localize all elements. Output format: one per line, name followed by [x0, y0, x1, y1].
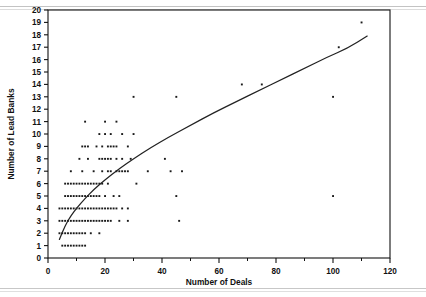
x-axis-tick-labels: 020406080100120	[46, 267, 398, 276]
svg-text:2: 2	[36, 229, 41, 238]
svg-text:10: 10	[32, 130, 42, 139]
svg-text:16: 16	[32, 56, 42, 65]
svg-text:100: 100	[326, 267, 340, 276]
svg-text:13: 13	[32, 93, 42, 102]
x-axis-title: Number of Deals	[186, 277, 253, 287]
svg-text:80: 80	[271, 267, 281, 276]
svg-text:60: 60	[214, 267, 224, 276]
svg-text:11: 11	[32, 118, 41, 127]
svg-text:18: 18	[32, 31, 42, 40]
svg-text:14: 14	[32, 80, 42, 89]
x-axis-ticks	[48, 258, 390, 263]
svg-text:4: 4	[36, 204, 41, 213]
svg-text:1: 1	[36, 242, 41, 251]
scatter-data-points	[59, 22, 363, 247]
svg-text:8: 8	[36, 155, 41, 164]
svg-text:0: 0	[36, 254, 41, 263]
svg-text:6: 6	[36, 180, 41, 189]
y-axis-ticks	[44, 10, 48, 258]
svg-text:15: 15	[32, 68, 42, 77]
svg-text:17: 17	[32, 43, 42, 52]
y-axis-tick-labels: 01234567891011121314151617181920	[32, 6, 42, 263]
svg-text:9: 9	[36, 142, 41, 151]
svg-text:5: 5	[36, 192, 41, 201]
svg-text:0: 0	[46, 267, 51, 276]
svg-text:120: 120	[383, 267, 397, 276]
svg-text:20: 20	[100, 267, 110, 276]
svg-text:3: 3	[36, 217, 41, 226]
svg-text:7: 7	[36, 167, 41, 176]
chart-canvas: 020406080100120 012345678910111213141516…	[0, 0, 426, 297]
svg-text:20: 20	[32, 6, 42, 15]
y-axis-title: Number of Lead Banks	[6, 88, 16, 180]
scatter-plot-figure: 020406080100120 012345678910111213141516…	[0, 0, 426, 297]
svg-text:12: 12	[32, 105, 42, 114]
svg-text:40: 40	[157, 267, 167, 276]
svg-text:19: 19	[32, 18, 42, 27]
